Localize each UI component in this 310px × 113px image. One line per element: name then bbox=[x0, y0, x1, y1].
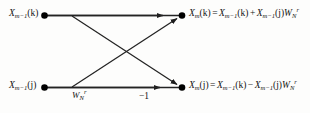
eq-top-t1-sub: m−1 bbox=[225, 12, 238, 19]
eq-top-tw-base: W bbox=[284, 8, 292, 18]
node-input-top bbox=[41, 12, 48, 19]
eq-bottom-tw-base: W bbox=[282, 80, 290, 90]
eq-top-t1-arg: (k) bbox=[237, 8, 248, 18]
edge-cross-down bbox=[72, 16, 177, 85]
equation-output-bottom: Xm(j)=Xm−1(k)−Xm−1(j)WNr bbox=[189, 81, 297, 91]
eq-top-lhs-arg: (k) bbox=[200, 8, 211, 18]
label-input-top-arg: (k) bbox=[27, 8, 38, 18]
eq-top-t2-arg: (j) bbox=[275, 8, 284, 18]
label-input-bottom-sub: m−1 bbox=[15, 84, 28, 91]
eq-top-tw-sub: N bbox=[292, 12, 296, 19]
node-input-bottom bbox=[41, 84, 48, 91]
eq-bottom-t1-base: X bbox=[217, 80, 223, 90]
eq-bottom-lhs-base: X bbox=[189, 80, 195, 90]
eq-bottom-lhs-arg: (j) bbox=[200, 80, 209, 90]
twiddle-sub: N bbox=[80, 94, 84, 101]
eq-bottom-t1-sub: m−1 bbox=[223, 84, 236, 91]
label-input-bottom-arg: (j) bbox=[27, 80, 36, 90]
eq-bottom-t2-arg: (j) bbox=[273, 80, 282, 90]
twiddle-base: W bbox=[72, 90, 80, 100]
eq-bottom-tw-sup: r bbox=[294, 78, 297, 85]
node-output-top bbox=[179, 12, 186, 19]
eq-top-t1-base: X bbox=[219, 8, 225, 18]
label-input-top-sub: m−1 bbox=[15, 12, 28, 19]
eq-bottom-t1-arg: (k) bbox=[235, 80, 246, 90]
eq-bottom-equals: = bbox=[209, 80, 217, 90]
eq-bottom-lhs-sub: m bbox=[195, 84, 200, 91]
label-input-bottom-base: X bbox=[9, 80, 15, 90]
equation-output-top: Xm(k)=Xm−1(k)+Xm−1(j)WNr bbox=[189, 9, 299, 19]
eq-top-t2-base: X bbox=[257, 8, 263, 18]
label-input-top: Xm−1(k) bbox=[9, 9, 38, 19]
label-input-bottom: Xm−1(j) bbox=[9, 81, 36, 91]
label-minus-one: −1 bbox=[139, 92, 149, 102]
eq-top-t2-sub: m−1 bbox=[263, 12, 276, 19]
eq-top-lhs-base: X bbox=[189, 8, 195, 18]
label-input-top-base: X bbox=[9, 8, 15, 18]
label-twiddle-factor: WNr bbox=[72, 91, 86, 100]
fft-butterfly-diagram: Xm−1(k) Xm−1(j) Xm(k)=Xm−1(k)+Xm−1(j)WNr… bbox=[0, 0, 310, 113]
eq-top-lhs-sub: m bbox=[195, 12, 200, 19]
eq-bottom-tw-sub: N bbox=[290, 84, 294, 91]
node-output-bottom bbox=[179, 84, 186, 91]
eq-top-tw-sup: r bbox=[296, 6, 299, 13]
eq-top-equals: = bbox=[211, 8, 219, 18]
eq-bottom-t2-sub: m−1 bbox=[260, 84, 273, 91]
edge-cross-up bbox=[72, 19, 177, 88]
eq-bottom-operator: − bbox=[246, 80, 254, 90]
eq-top-operator: + bbox=[248, 8, 256, 18]
